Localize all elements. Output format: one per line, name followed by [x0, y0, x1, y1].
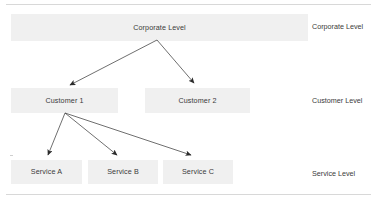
- node-label-service-a: Service A: [31, 168, 62, 175]
- node-label-customer-2: Customer 2: [178, 97, 216, 104]
- level-caption-customer: Customer Level: [312, 97, 362, 104]
- node-corporate-level[interactable]: Corporate Level: [11, 14, 308, 41]
- level-caption-service: Service Level: [312, 170, 355, 177]
- level-caption-corporate: Corporate Level: [312, 23, 363, 30]
- node-customer-1[interactable]: Customer 1: [11, 88, 118, 113]
- bottom-divider-rule: [6, 194, 371, 195]
- edge-corporate-to-customer-1: [70, 40, 157, 85]
- node-service-a[interactable]: Service A: [11, 160, 82, 184]
- top-divider-rule: [6, 4, 371, 5]
- service-row-tick-mark: [10, 155, 13, 156]
- node-service-c[interactable]: Service C: [163, 160, 233, 184]
- hierarchy-diagram: Corporate Level Customer 1 Customer 2 Se…: [0, 0, 377, 203]
- node-label-service-b: Service B: [107, 168, 139, 175]
- edge-corporate-to-customer-2: [157, 40, 194, 83]
- edge-customer-1-to-service-a: [48, 113, 65, 155]
- edge-customer-1-to-service-c: [65, 113, 191, 155]
- node-label-service-c: Service C: [182, 168, 214, 175]
- node-label-corporate-level: Corporate Level: [133, 24, 186, 31]
- node-label-customer-1: Customer 1: [45, 97, 83, 104]
- node-service-b[interactable]: Service B: [88, 160, 158, 184]
- node-customer-2[interactable]: Customer 2: [145, 88, 250, 113]
- edge-customer-1-to-service-b: [65, 113, 117, 155]
